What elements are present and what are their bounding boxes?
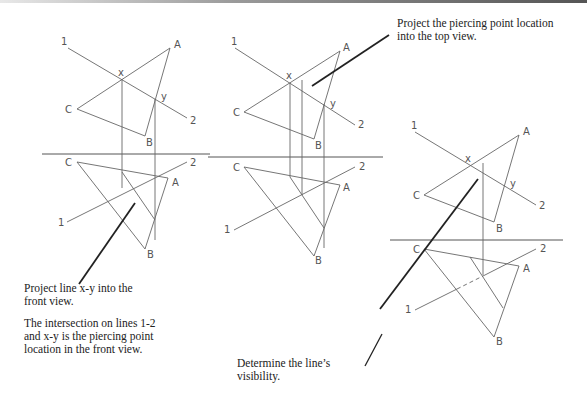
label-2: 2	[190, 157, 196, 168]
view-2-top-view: 1 2 A B C x y	[231, 36, 364, 151]
label-c: C	[413, 190, 420, 201]
label-b: B	[315, 140, 322, 151]
note-step1: Project line x-y into the front view. Th…	[24, 282, 194, 365]
plane-abc-front	[77, 162, 168, 249]
note-step3: Determine the line’s visibility.	[237, 357, 377, 383]
label-a: A	[172, 177, 179, 188]
label-2: 2	[540, 243, 546, 254]
label-1: 1	[224, 224, 230, 235]
line-x-y-front	[290, 177, 324, 228]
line-1-2-top	[415, 132, 536, 205]
label-c: C	[233, 162, 240, 173]
line-1-2-front-visible	[415, 289, 457, 310]
line-x-y-front	[470, 257, 503, 308]
label-2: 2	[358, 119, 364, 130]
view-2-front-view: C A B 2 1	[224, 161, 365, 266]
note-text: visibility.	[237, 370, 280, 382]
label-c: C	[65, 157, 72, 168]
view-3-front-view: C A B 2 1	[405, 243, 546, 347]
note-text: Determine the line’s	[237, 357, 330, 369]
label-1: 1	[405, 304, 411, 315]
label-2: 2	[359, 161, 365, 172]
leader-line-step3	[380, 179, 478, 309]
label-c: C	[65, 104, 72, 115]
view-3: 1 2 A B C x y C A B 2 1	[365, 120, 563, 366]
label-1: 1	[411, 120, 417, 131]
view-1-top-view: 1 2 A B C x y	[61, 36, 196, 148]
note-text: Project the piercing point location	[397, 17, 554, 29]
leader-line-step2	[312, 35, 389, 86]
line-1-2-top	[235, 48, 355, 125]
line-x-y-front	[122, 172, 155, 220]
label-c: C	[233, 107, 240, 118]
label-b: B	[147, 249, 154, 260]
label-b: B	[315, 255, 322, 266]
label-y: y	[161, 91, 167, 102]
plane-abc-top	[244, 51, 340, 139]
view-3-top-view: 1 2 A B C x y	[411, 120, 545, 234]
label-a: A	[523, 126, 530, 137]
label-1: 1	[58, 217, 64, 228]
line-1-2-top	[68, 48, 187, 118]
label-x: x	[465, 153, 471, 164]
label-2: 2	[190, 115, 196, 126]
leader-line-step1	[79, 203, 135, 284]
line-1-2-front-hidden	[457, 276, 483, 289]
label-y: y	[330, 98, 336, 109]
label-y: y	[510, 178, 516, 189]
note-text: location in the front view.	[24, 343, 142, 355]
label-a: A	[343, 42, 350, 53]
label-b: B	[146, 137, 153, 148]
label-2: 2	[539, 200, 545, 211]
label-a: A	[174, 39, 181, 50]
view-1-front-view: C A B 2 1	[58, 157, 196, 260]
label-x: x	[286, 70, 292, 81]
label-c: C	[413, 244, 420, 255]
plane-abc-top	[424, 135, 519, 222]
plane-abc-front	[424, 249, 519, 337]
label-x: x	[118, 67, 124, 78]
note-text: and x-y is the piercing point	[24, 330, 153, 342]
note-step2: Project the piercing point location into…	[397, 17, 587, 43]
label-b: B	[496, 336, 503, 347]
note-text: front view.	[24, 295, 74, 307]
label-b: B	[496, 223, 503, 234]
label-a: A	[523, 263, 530, 274]
note-text: Project line x-y into the	[24, 282, 133, 294]
note-text: The intersection on lines 1-2	[24, 317, 156, 329]
label-1: 1	[231, 36, 237, 47]
label-a: A	[343, 182, 350, 193]
label-1: 1	[61, 36, 67, 47]
note-text: into the top view.	[397, 30, 477, 42]
view-2: 1 2 A B C x y C A B 2 1	[208, 35, 389, 266]
view-1: 1 2 A B C x y C A B 2 1	[42, 36, 210, 284]
